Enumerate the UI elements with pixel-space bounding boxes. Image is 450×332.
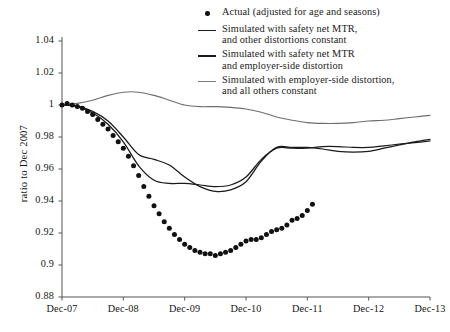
y-tick-label: 0.98 xyxy=(0,130,54,141)
legend-item-safety-net-mtr-employer-side: Simulated with safety net MTR and employ… xyxy=(196,48,442,71)
x-tick-label: Dec-13 xyxy=(390,303,450,314)
y-tick-label: 0.96 xyxy=(0,162,54,173)
legend-label: Simulated with employer-side distortion,… xyxy=(222,74,395,97)
legend-label: Simulated with safety net MTR, and other… xyxy=(222,23,357,46)
y-tick-label: 1.04 xyxy=(0,34,54,45)
legend-marker-line-icon xyxy=(196,23,222,37)
legend-label: Simulated with safety net MTR and employ… xyxy=(222,48,355,71)
chart-legend: Actual (adjusted for age and seasons) Si… xyxy=(196,6,442,100)
y-tick-label: 0.92 xyxy=(0,226,54,237)
legend-item-actual: Actual (adjusted for age and seasons) xyxy=(196,6,442,20)
y-tick-label: 0.88 xyxy=(0,290,54,301)
y-tick-label: 1.02 xyxy=(0,66,54,77)
y-tick-label: 1 xyxy=(0,98,54,109)
legend-item-employer-side-others-constant: Simulated with employer-side distortion,… xyxy=(196,74,442,97)
legend-label: Actual (adjusted for age and seasons) xyxy=(222,6,380,18)
legend-marker-line-icon xyxy=(196,74,222,88)
y-tick-label: 0.9 xyxy=(0,258,54,269)
y-tick-label: 0.94 xyxy=(0,194,54,205)
legend-marker-line-icon xyxy=(196,48,222,62)
legend-marker-dot-icon xyxy=(196,6,222,20)
legend-item-safety-net-mtr-other-constant: Simulated with safety net MTR, and other… xyxy=(196,23,442,46)
